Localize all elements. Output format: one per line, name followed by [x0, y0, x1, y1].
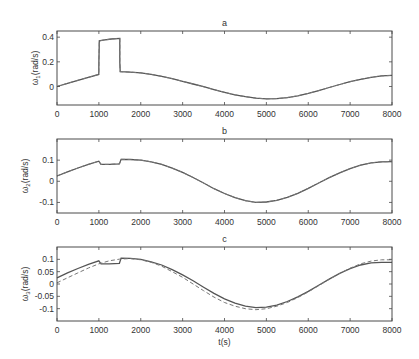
x-tick-label: 8000 [383, 325, 402, 335]
subplot-c: c010002000300040005000600070008000-0.1-0… [20, 234, 402, 347]
x-tick-label: 3000 [173, 325, 192, 335]
y-axis-label: ω1(rad/s) [30, 51, 41, 86]
y-tick-label: -0.1 [39, 197, 54, 207]
y-tick-label: 0 [49, 279, 54, 289]
x-tick-label: 0 [55, 325, 60, 335]
y-tick-label: -0.05 [35, 291, 55, 301]
y-tick-label: 0.2 [42, 57, 54, 67]
x-tick-label: 8000 [383, 217, 402, 227]
y-axis-label: ω3(rad/s) [20, 267, 31, 302]
x-tick-label: 0 [55, 217, 60, 227]
y-tick-label: -0.1 [39, 304, 54, 314]
x-tick-label: 4000 [215, 217, 234, 227]
x-tick-label: 1000 [89, 325, 108, 335]
x-tick-label: 4000 [215, 325, 234, 335]
y-tick-label: 0.1 [42, 155, 54, 165]
subplot-title: c [222, 234, 227, 244]
x-tick-label: 7000 [341, 325, 360, 335]
y-tick-label: 0.1 [42, 254, 54, 264]
series-actual [57, 159, 392, 202]
x-tick-label: 5000 [257, 109, 276, 119]
x-tick-label: 6000 [299, 109, 318, 119]
y-tick-label: 0 [49, 176, 54, 186]
x-tick-label: 7000 [341, 109, 360, 119]
x-tick-label: 3000 [173, 109, 192, 119]
x-tick-label: 1000 [89, 217, 108, 227]
series-actual [57, 38, 392, 98]
series-reference [57, 38, 392, 98]
subplot-a: a01000200030004000500060007000800000.20.… [30, 18, 402, 119]
y-tick-label: 0.05 [37, 267, 54, 277]
subplot-title: a [222, 18, 227, 28]
y-axis-label: ω2(rad/s) [20, 159, 31, 194]
x-tick-label: 8000 [383, 109, 402, 119]
axes-frame [57, 31, 392, 105]
x-tick-label: 2000 [131, 325, 150, 335]
figure: a01000200030004000500060007000800000.20.… [0, 0, 419, 359]
axes-frame [57, 247, 392, 321]
x-axis-label: t(s) [218, 337, 230, 347]
x-tick-label: 7000 [341, 217, 360, 227]
x-tick-label: 5000 [257, 325, 276, 335]
chart-canvas: a01000200030004000500060007000800000.20.… [0, 0, 419, 359]
x-tick-label: 6000 [299, 217, 318, 227]
x-tick-label: 1000 [89, 109, 108, 119]
x-tick-label: 6000 [299, 325, 318, 335]
axes-frame [57, 139, 392, 213]
y-tick-label: 0 [49, 82, 54, 92]
series-actual [57, 258, 392, 308]
x-tick-label: 0 [55, 109, 60, 119]
x-tick-label: 3000 [173, 217, 192, 227]
y-tick-label: 0.4 [42, 32, 54, 42]
series-reference [57, 259, 392, 310]
x-tick-label: 5000 [257, 217, 276, 227]
x-tick-label: 2000 [131, 109, 150, 119]
x-tick-label: 2000 [131, 217, 150, 227]
subplot-title: b [222, 126, 227, 136]
series-reference [57, 159, 392, 202]
subplot-b: b010002000300040005000600070008000-0.100… [20, 126, 402, 227]
x-tick-label: 4000 [215, 109, 234, 119]
